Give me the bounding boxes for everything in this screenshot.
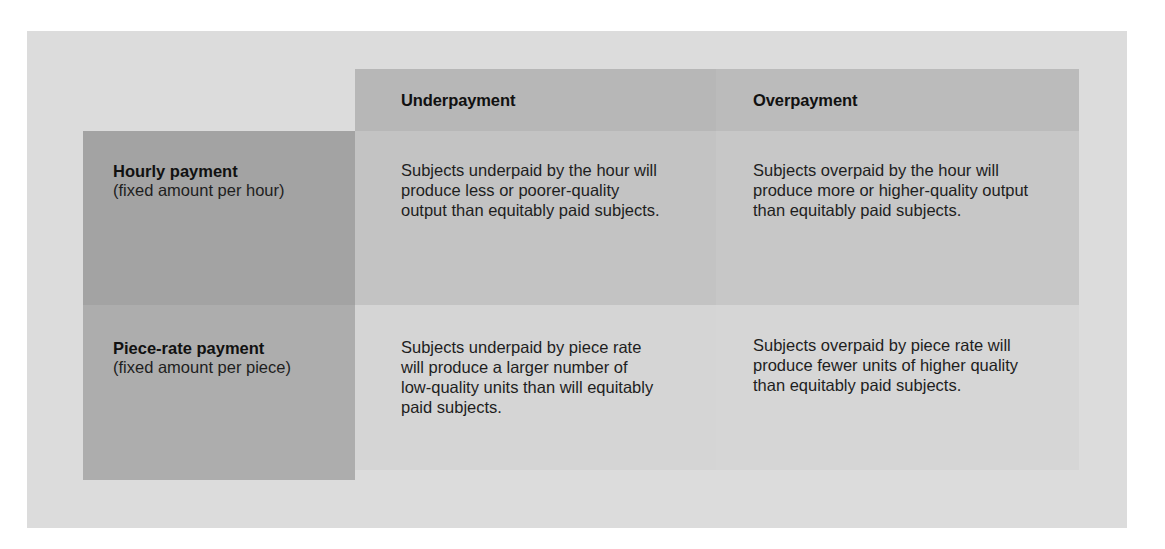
cell-text: Subjects overpaid by the hour will produ… — [753, 160, 1033, 220]
column-header-label: Overpayment — [753, 91, 857, 110]
column-header-overpayment: Overpayment — [716, 69, 1079, 131]
row-header-hourly-payment: Hourly payment (fixed amount per hour) — [83, 131, 355, 305]
cell-text: Subjects underpaid by piece rate will pr… — [401, 337, 661, 417]
cell-hourly-underpayment: Subjects underpaid by the hour will prod… — [355, 131, 716, 305]
row-header-title: Piece-rate payment — [113, 339, 264, 358]
cell-piece-rate-overpayment: Subjects overpaid by piece rate will pro… — [716, 305, 1079, 470]
column-header-label: Underpayment — [401, 91, 515, 110]
column-header-underpayment: Underpayment — [355, 69, 716, 131]
row-header-title: Hourly payment — [113, 162, 238, 181]
cell-text: Subjects underpaid by the hour will prod… — [401, 160, 661, 220]
cell-text: Subjects overpaid by piece rate will pro… — [753, 335, 1043, 395]
row-header-piece-rate-payment: Piece-rate payment (fixed amount per pie… — [83, 305, 355, 480]
row-header-subtitle: (fixed amount per piece) — [113, 358, 291, 377]
row-header-subtitle: (fixed amount per hour) — [113, 181, 285, 200]
cell-piece-rate-underpayment: Subjects underpaid by piece rate will pr… — [355, 305, 716, 470]
cell-hourly-overpayment: Subjects overpaid by the hour will produ… — [716, 131, 1079, 305]
